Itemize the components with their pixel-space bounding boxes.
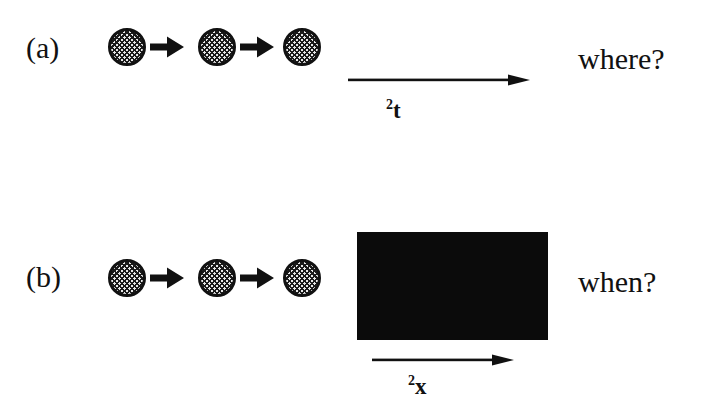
block-arrow-right-icon: [240, 36, 274, 58]
axis-label-t-base: t: [393, 98, 401, 123]
panel-label-b: (b): [26, 262, 61, 292]
block-arrow-right-icon: [240, 267, 274, 289]
axis-label-x-superscript: 2: [408, 373, 415, 388]
block-arrow-right-icon: [150, 36, 184, 58]
question-when: when?: [578, 267, 656, 297]
long-arrow-right-icon: [348, 72, 530, 88]
hatched-circle-icon: [108, 28, 146, 66]
hatched-circle-icon: [283, 259, 321, 297]
hatched-circle-icon: [198, 259, 236, 297]
hatched-circle-icon: [283, 28, 321, 66]
axis-label-t-superscript: 2: [386, 97, 393, 112]
panel-label-a: (a): [26, 33, 59, 63]
solid-black-rectangle: [357, 232, 548, 340]
block-arrow-right-icon: [150, 267, 184, 289]
hatched-circle-icon: [108, 259, 146, 297]
axis-label-x: 2x: [408, 374, 427, 398]
axis-label-x-base: x: [415, 374, 427, 399]
question-where: where?: [578, 44, 665, 74]
axis-label-t: 2t: [386, 98, 401, 122]
figure-canvas: (a) 2t where? (b): [0, 0, 707, 409]
hatched-circle-icon: [198, 28, 236, 66]
long-arrow-right-icon: [372, 352, 514, 368]
